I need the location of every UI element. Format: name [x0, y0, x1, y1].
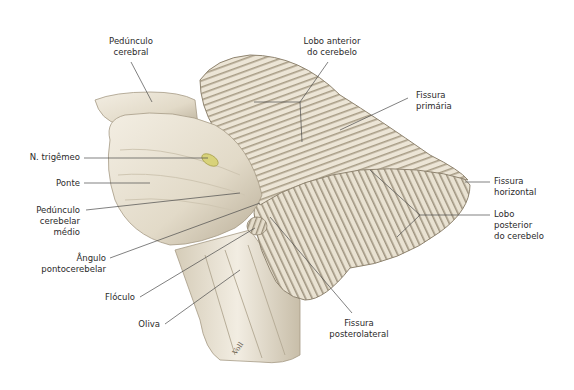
- label-pedunculo-cerebral: Pedúnculo cerebral: [100, 36, 162, 58]
- label-lobo-anterior: Lobo anterior do cerebelo: [296, 36, 368, 58]
- label-line: Flóculo: [0, 292, 135, 303]
- label-line: Pedúnculo: [0, 205, 80, 216]
- label-fissura-horizontal: Fissura horizontal: [494, 176, 536, 198]
- label-line: Lobo: [494, 209, 544, 220]
- label-n-trigemeo: N. trigêmeo: [0, 152, 80, 163]
- label-line: posterior: [494, 220, 544, 231]
- label-oliva: Oliva: [0, 319, 160, 330]
- label-line: Fissura: [320, 318, 398, 329]
- label-floculo: Flóculo: [0, 292, 135, 303]
- label-ponte: Ponte: [0, 178, 80, 189]
- label-line: Lobo anterior: [296, 36, 368, 47]
- label-line: médio: [0, 227, 80, 238]
- label-line: Fissura: [416, 90, 452, 101]
- label-line: cerebral: [100, 47, 162, 58]
- label-fissura-posterolateral: Fissura posterolateral: [320, 318, 398, 340]
- label-line: cerebelar: [0, 216, 80, 227]
- flocculus: [247, 217, 267, 235]
- label-line: Ponte: [0, 178, 80, 189]
- label-line: do cerebelo: [494, 231, 544, 242]
- label-line: posterolateral: [320, 329, 398, 340]
- label-line: do cerebelo: [296, 47, 368, 58]
- label-line: Oliva: [0, 319, 160, 330]
- label-line: pontocerebelar: [0, 264, 106, 275]
- label-line: primária: [416, 101, 452, 112]
- label-line: Pedúnculo: [100, 36, 162, 47]
- label-lobo-posterior: Lobo posterior do cerebelo: [494, 209, 544, 242]
- label-line: N. trigêmeo: [0, 152, 80, 163]
- label-fissura-primaria: Fissura primária: [416, 90, 452, 112]
- label-pedunculo-cerebelar-medio: Pedúnculo cerebelar médio: [0, 205, 80, 238]
- label-line: Ângulo: [0, 253, 106, 264]
- anatomy-illustration: Voll: [0, 0, 574, 390]
- label-angulo-pontocerebelar: Ângulo pontocerebelar: [0, 253, 106, 275]
- label-line: horizontal: [494, 187, 536, 198]
- label-line: Fissura: [494, 176, 536, 187]
